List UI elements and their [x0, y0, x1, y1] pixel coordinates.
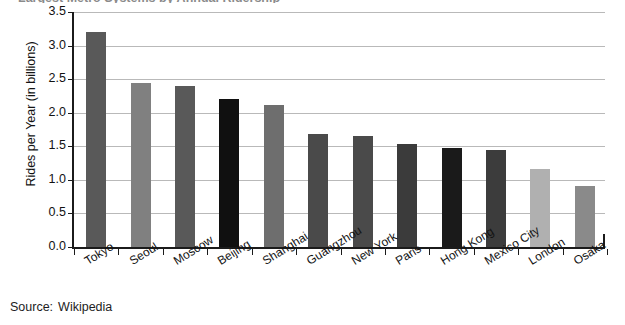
bar	[442, 148, 462, 247]
gridline	[74, 146, 605, 147]
bar	[486, 150, 506, 247]
gridline	[74, 12, 605, 13]
x-axis-tick-mark	[563, 249, 564, 255]
x-axis-tick-mark	[474, 249, 475, 255]
source-note: Source:Wikipedia	[10, 300, 112, 314]
x-axis-tick-mark	[207, 249, 208, 255]
source-label: Source:	[10, 300, 53, 314]
bar	[575, 186, 595, 247]
chart-figure: Largest Metro Systems by Annual Ridershi…	[0, 0, 625, 325]
bar	[219, 99, 239, 247]
plot-right-edge	[603, 234, 605, 249]
x-axis-tick-mark	[74, 249, 75, 255]
bar	[131, 83, 151, 247]
x-axis-tick-mark	[341, 249, 342, 255]
gridline	[74, 180, 605, 181]
bar	[308, 134, 328, 247]
x-axis-tick-mark	[296, 249, 297, 255]
bar	[86, 32, 106, 247]
gridline	[74, 113, 605, 114]
y-axis-tick-label: 0.0	[24, 239, 66, 253]
y-axis-line	[72, 12, 74, 247]
bar	[530, 169, 550, 247]
source-value: Wikipedia	[58, 300, 112, 314]
gridline	[74, 79, 605, 80]
x-axis-tick-mark	[163, 249, 164, 255]
bar	[353, 136, 373, 247]
x-axis-tick-mark	[118, 249, 119, 255]
bar	[175, 86, 195, 247]
x-axis-tick-mark	[385, 249, 386, 255]
gridline	[74, 213, 605, 214]
x-axis-tick-mark	[518, 249, 519, 255]
x-axis-tick-mark	[252, 249, 253, 255]
plot-area	[72, 12, 605, 247]
y-axis-title: Rides per Year (in billions)	[24, 4, 38, 224]
chart-title: Largest Metro Systems by Annual Ridershi…	[18, 0, 438, 3]
x-axis-tick-mark	[607, 249, 608, 255]
gridline	[74, 46, 605, 47]
bar	[397, 144, 417, 247]
x-axis-line	[72, 247, 605, 249]
x-axis-tick-mark	[429, 249, 430, 255]
bar	[264, 105, 284, 247]
